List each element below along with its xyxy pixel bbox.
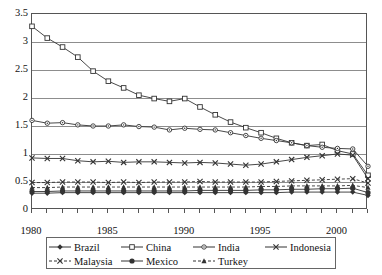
legend-row: MalaysiaMexicoTurkey — [47, 254, 335, 268]
x-tick — [31, 209, 32, 213]
x-tick — [352, 209, 353, 213]
x-tick — [123, 209, 124, 213]
x-tick — [245, 209, 246, 213]
legend-item-china[interactable]: China — [119, 241, 191, 253]
x-tick-label: 2000 — [316, 225, 356, 236]
data-point — [202, 245, 206, 249]
legend-marker-mexico — [119, 255, 145, 267]
legend-marker-turkey — [191, 255, 217, 267]
x-axis: 19801985199019952000 — [31, 13, 367, 209]
chart-legend: BrazilChinaIndiaIndonesia MalaysiaMexico… — [46, 237, 336, 269]
y-axis: 00.511.522.533.5 — [0, 13, 28, 209]
x-tick — [168, 209, 169, 213]
y-tick-label: 1.5 — [15, 120, 28, 130]
x-tick — [321, 209, 322, 213]
x-tick-label: 1985 — [87, 225, 127, 236]
y-tick-label: 2.5 — [15, 64, 28, 74]
legend-item-brazil[interactable]: Brazil — [47, 241, 119, 253]
y-tick-label: 3.5 — [15, 8, 28, 18]
x-tick — [367, 209, 368, 213]
x-tick — [62, 209, 63, 213]
y-tick-label: 2 — [23, 92, 28, 102]
x-tick-label: 1995 — [240, 225, 280, 236]
legend-item-india[interactable]: India — [191, 241, 263, 253]
x-tick-label: 1980 — [11, 225, 51, 236]
line-chart: 00.511.522.533.5 19801985199019952000 Br… — [0, 0, 382, 275]
data-point — [130, 245, 135, 250]
y-tick-label: 1 — [23, 148, 28, 158]
data-point — [57, 244, 62, 249]
x-tick — [260, 209, 261, 213]
x-tick — [214, 209, 215, 213]
legend-label: Indonesia — [289, 242, 333, 253]
x-tick-label: 1990 — [164, 225, 204, 236]
legend-label: Malaysia — [73, 256, 115, 267]
x-tick — [230, 209, 231, 213]
legend-marker-india — [191, 241, 217, 253]
legend-item-malaysia[interactable]: Malaysia — [47, 255, 119, 267]
legend-label: Brazil — [73, 242, 102, 253]
x-tick — [275, 209, 276, 213]
x-tick — [138, 209, 139, 213]
x-tick — [199, 209, 200, 213]
legend-item-indonesia[interactable]: Indonesia — [263, 241, 335, 253]
x-tick — [336, 209, 337, 213]
legend-marker-indonesia — [263, 241, 289, 253]
x-tick — [92, 209, 93, 213]
legend-marker-china — [119, 241, 145, 253]
x-tick — [46, 209, 47, 213]
y-tick-label: 3 — [23, 36, 28, 46]
legend-marker-brazil — [47, 241, 73, 253]
legend-row: BrazilChinaIndiaIndonesia — [47, 240, 335, 254]
legend-label: India — [217, 242, 242, 253]
x-tick — [306, 209, 307, 213]
y-tick-label: 0.5 — [15, 176, 28, 186]
legend-marker-malaysia — [47, 255, 73, 267]
data-point — [129, 258, 134, 263]
x-tick — [153, 209, 154, 213]
legend-label: China — [145, 242, 173, 253]
x-tick — [107, 209, 108, 213]
x-tick — [291, 209, 292, 213]
x-tick — [184, 209, 185, 213]
legend-item-turkey[interactable]: Turkey — [191, 255, 263, 267]
legend-label: Mexico — [145, 256, 180, 267]
legend-label: Turkey — [217, 256, 250, 267]
legend-item-mexico[interactable]: Mexico — [119, 255, 191, 267]
x-tick — [77, 209, 78, 213]
y-tick-label: 0 — [23, 204, 28, 214]
